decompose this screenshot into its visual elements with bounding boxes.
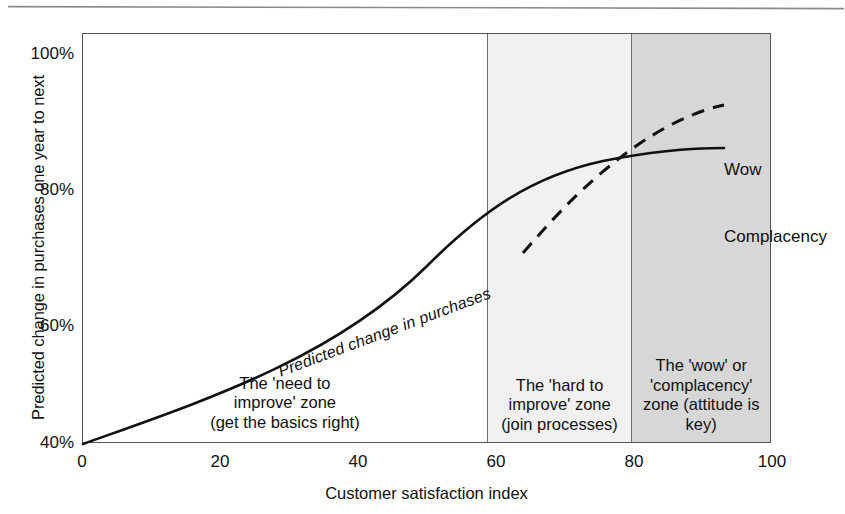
x-tick-label-0: 0: [52, 452, 112, 472]
y-tick-label-40: 40%: [10, 434, 74, 451]
data-curves: [83, 34, 772, 444]
x-tick-label-80: 80: [604, 452, 664, 472]
y-tick-label-80: 80%: [10, 181, 74, 198]
x-axis-tick-labels: 0 20 40 60 80 100: [0, 452, 845, 476]
x-axis-title: Customer satisfaction index: [82, 484, 771, 503]
x-tick-label-60: 60: [466, 452, 526, 472]
y-axis-tick-labels: 100% 80% 60% 40%: [10, 0, 74, 514]
plot-area: The 'need to improve' zone (get the basi…: [82, 33, 771, 443]
chart-figure: Predicted change in purchases one year t…: [0, 0, 845, 514]
y-tick-label-100: 100%: [10, 45, 74, 62]
series-wow-path: [523, 105, 724, 253]
x-tick-label-40: 40: [328, 452, 388, 472]
series-complacency-path: [83, 148, 724, 444]
series-label-complacency: Complacency: [724, 227, 827, 247]
y-tick-label-60: 60%: [10, 317, 74, 334]
x-tick-label-20: 20: [190, 452, 250, 472]
x-tick-label-100: 100: [742, 452, 802, 472]
series-label-wow: Wow: [724, 160, 761, 180]
